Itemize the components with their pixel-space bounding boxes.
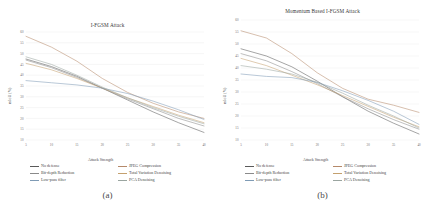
legend-line-icon [245,166,254,167]
legend-label: No defense [41,163,60,169]
svg-text:35: 35 [20,84,24,88]
legend-line-icon [30,166,39,167]
svg-text:35: 35 [235,78,239,82]
panel-a-plot-area: 1015202530354045505560510152025303540 [10,28,208,156]
svg-text:10: 10 [235,138,239,142]
legend-label: PCA Denoising [129,177,155,183]
panel-a-chart-svg: 1015202530354045505560510152025303540 [10,28,208,156]
legend-label: JPEG Compression [344,163,376,169]
svg-text:30: 30 [152,143,156,147]
legend-line-icon [333,180,342,181]
legend-label: JPEG Compression [129,163,161,169]
legend-item-low-pass-filter: Low-pass filter [30,177,114,183]
legend-line-icon [245,173,254,174]
panel-a-legend: No defense JPEG Compression Bit-depth Re… [30,163,202,183]
svg-text:10: 10 [20,138,24,142]
svg-text:35: 35 [177,143,181,147]
svg-text:30: 30 [235,90,239,94]
legend-item-bit-depth-reduction: Bit-depth Reduction [30,170,114,176]
svg-text:10: 10 [265,143,269,147]
legend-label: Low-pass filter [41,177,66,183]
svg-text:45: 45 [20,63,24,67]
svg-text:20: 20 [235,114,239,118]
legend-item-total-variation-denoising: Total Variation Denoising [118,170,202,176]
legend-line-icon [118,180,127,181]
svg-text:25: 25 [20,106,24,110]
legend-item-pca-denoising: PCA Denoising [333,177,417,183]
legend-item-low-pass-filter: Low-pass filter [245,177,329,183]
legend-line-icon [30,180,39,181]
svg-text:25: 25 [126,143,130,147]
legend-item-total-variation-denoising: Total Variation Denoising [333,170,417,176]
legend-line-icon [245,180,254,181]
svg-text:20: 20 [316,143,320,147]
panel-b-legend: No defense JPEG Compression Bit-depth Re… [245,163,417,183]
svg-text:25: 25 [341,143,345,147]
panel-a: I-FGSM Attack mIoU (%) 10152025303540455… [0,0,215,217]
svg-text:55: 55 [20,41,24,45]
legend-label: No defense [256,163,275,169]
svg-text:55: 55 [235,30,239,34]
svg-text:25: 25 [235,102,239,106]
svg-text:15: 15 [235,126,239,130]
svg-text:5: 5 [240,143,242,147]
svg-text:35: 35 [392,143,396,147]
legend-line-icon [333,173,342,174]
legend-label: PCA Denoising [344,177,370,183]
legend-item-jpeg-compression: JPEG Compression [333,163,417,169]
legend-label: Total Variation Denoising [129,170,171,176]
panel-b-x-axis-label: Attack Strength [303,157,328,162]
svg-text:15: 15 [290,143,294,147]
legend-label: Total Variation Denoising [344,170,386,176]
svg-text:40: 40 [202,143,206,147]
panel-a-x-axis-label: Attack Strength [88,157,113,162]
legend-label: Bit-depth Reduction [41,170,74,176]
legend-label: Low-pass filter [256,177,281,183]
legend-label: Bit-depth Reduction [256,170,289,176]
panel-b: Momentum Based I-FGSM Attack mIoU (%) 10… [215,0,430,217]
svg-text:5: 5 [25,143,27,147]
panel-b-plot-area: 1015202530354045505560510152025303540 [225,16,423,156]
svg-text:30: 30 [20,95,24,99]
panel-b-caption: (b) [215,190,430,200]
legend-line-icon [118,166,127,167]
panel-b-chart-svg: 1015202530354045505560510152025303540 [225,16,423,156]
svg-text:40: 40 [235,66,239,70]
svg-text:20: 20 [20,117,24,121]
svg-text:10: 10 [50,143,54,147]
svg-text:20: 20 [101,143,105,147]
svg-text:30: 30 [367,143,371,147]
legend-line-icon [118,173,127,174]
svg-text:40: 40 [20,73,24,77]
legend-item-no-defense: No defense [30,163,114,169]
panel-b-title: Momentum Based I-FGSM Attack [215,8,430,14]
legend-line-icon [333,166,342,167]
legend-item-no-defense: No defense [245,163,329,169]
svg-text:50: 50 [20,52,24,56]
legend-line-icon [30,173,39,174]
svg-text:40: 40 [417,143,421,147]
legend-item-jpeg-compression: JPEG Compression [118,163,202,169]
svg-text:60: 60 [235,18,239,22]
legend-item-pca-denoising: PCA Denoising [118,177,202,183]
legend-item-bit-depth-reduction: Bit-depth Reduction [245,170,329,176]
panel-a-caption: (a) [0,190,215,200]
svg-text:45: 45 [235,54,239,58]
svg-text:60: 60 [20,30,24,34]
svg-text:50: 50 [235,42,239,46]
svg-text:15: 15 [20,127,24,131]
figure-container: I-FGSM Attack mIoU (%) 10152025303540455… [0,0,430,217]
svg-text:15: 15 [75,143,79,147]
